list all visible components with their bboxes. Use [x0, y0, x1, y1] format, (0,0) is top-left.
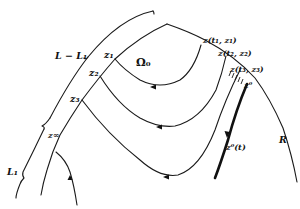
trajectory-z3 [82, 70, 240, 175]
label-brace-upper: L − L₁ [54, 50, 87, 61]
trajectory-diagram: L − L₁ L₁ Ω₀ z₁ z₂ z₃ z∞ z(t₁, z₁) z(t₂,… [0, 0, 300, 209]
label-z1: z₁ [103, 49, 114, 60]
label-z3: z₃ [69, 93, 80, 104]
trajectory-z-inf [56, 152, 77, 205]
label-z-t2: z(t₂, z₂) [217, 48, 252, 58]
brace-middle-cusp [42, 118, 50, 129]
label-brace-lower: L₁ [6, 166, 18, 177]
trajectory-z1 [115, 45, 201, 85]
label-z0: z⁰ [243, 80, 253, 90]
brace-lower-curve [16, 129, 44, 198]
bold-trajectory-z0 [215, 84, 247, 178]
label-z-t3: z(t₃, z₃) [229, 64, 264, 74]
brace-upper-tip [153, 11, 154, 14]
label-z-t1: z(t₁, z₁) [202, 35, 237, 45]
label-z-inf: z∞ [47, 130, 59, 140]
label-z2: z₂ [88, 67, 99, 78]
arrow-z1 [150, 85, 156, 90]
label-R: R [278, 134, 287, 145]
label-region-omega0: Ω₀ [136, 56, 151, 69]
trajectory-z2 [100, 56, 226, 126]
label-z0-t: z⁰(t) [225, 142, 246, 152]
